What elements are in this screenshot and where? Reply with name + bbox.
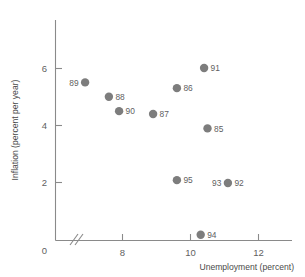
data-point-marker[interactable] xyxy=(224,179,232,187)
data-points-layer: 8988908786918595939294 xyxy=(69,63,244,240)
data-point-label: 93 xyxy=(212,178,222,188)
data-point-marker[interactable] xyxy=(173,176,181,184)
data-point-marker[interactable] xyxy=(115,107,123,115)
y-axis-title: Inflation (percent per year) xyxy=(10,79,20,180)
data-point-label: 89 xyxy=(69,78,79,88)
x-tick-label-12: 12 xyxy=(253,247,264,258)
data-point-marker[interactable] xyxy=(105,93,113,101)
data-point-label: 85 xyxy=(214,124,224,134)
y-tick-label-4: 4 xyxy=(42,120,47,131)
y-tick-label-6: 6 xyxy=(42,63,47,74)
x-tick-label-8: 8 xyxy=(120,247,125,258)
data-point-marker[interactable] xyxy=(203,124,211,132)
data-point-label: 91 xyxy=(211,63,221,73)
y-tick-label-0: 0 xyxy=(42,245,47,256)
data-point-marker[interactable] xyxy=(197,231,205,239)
data-point-label: 94 xyxy=(207,230,217,240)
data-point-label: 92 xyxy=(234,178,244,188)
data-point-marker[interactable] xyxy=(149,110,157,118)
data-point-label: 87 xyxy=(160,109,170,119)
data-point-marker[interactable] xyxy=(173,84,181,92)
plot-canvas: 6 4 2 0 8 10 12 Unemployment (percent) I… xyxy=(0,0,305,277)
y-tick-label-2: 2 xyxy=(42,177,47,188)
data-point-label: 90 xyxy=(126,106,136,116)
scatter-plot-figure: 6 4 2 0 8 10 12 Unemployment (percent) I… xyxy=(0,0,305,277)
data-point-label: 88 xyxy=(115,92,125,102)
x-axis-title: Unemployment (percent) xyxy=(199,262,294,272)
data-point-label: 86 xyxy=(183,83,193,93)
data-point-label: 95 xyxy=(183,175,193,185)
data-point-marker[interactable] xyxy=(200,64,208,72)
x-tick-label-10: 10 xyxy=(185,247,196,258)
data-point-marker[interactable] xyxy=(81,78,89,86)
